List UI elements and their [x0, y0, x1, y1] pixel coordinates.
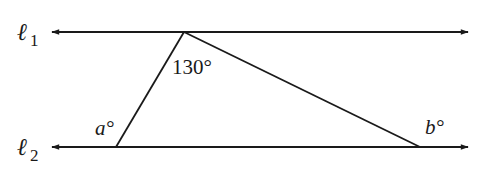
triangle-left-side: [116, 32, 184, 147]
label-l2-subscript: 2: [30, 146, 39, 165]
parallel-lines-triangle-diagram: ℓ 1 ℓ 2 130° a° b°: [0, 0, 478, 176]
angle-label-a: a°: [95, 116, 115, 140]
angle-label-b: b°: [425, 115, 445, 139]
triangle-right-side: [184, 32, 420, 147]
label-l2-symbol: ℓ: [17, 134, 27, 160]
label-l1-subscript: 1: [30, 31, 39, 50]
label-l1-symbol: ℓ: [17, 19, 27, 45]
angle-label-apex: 130°: [172, 55, 212, 79]
